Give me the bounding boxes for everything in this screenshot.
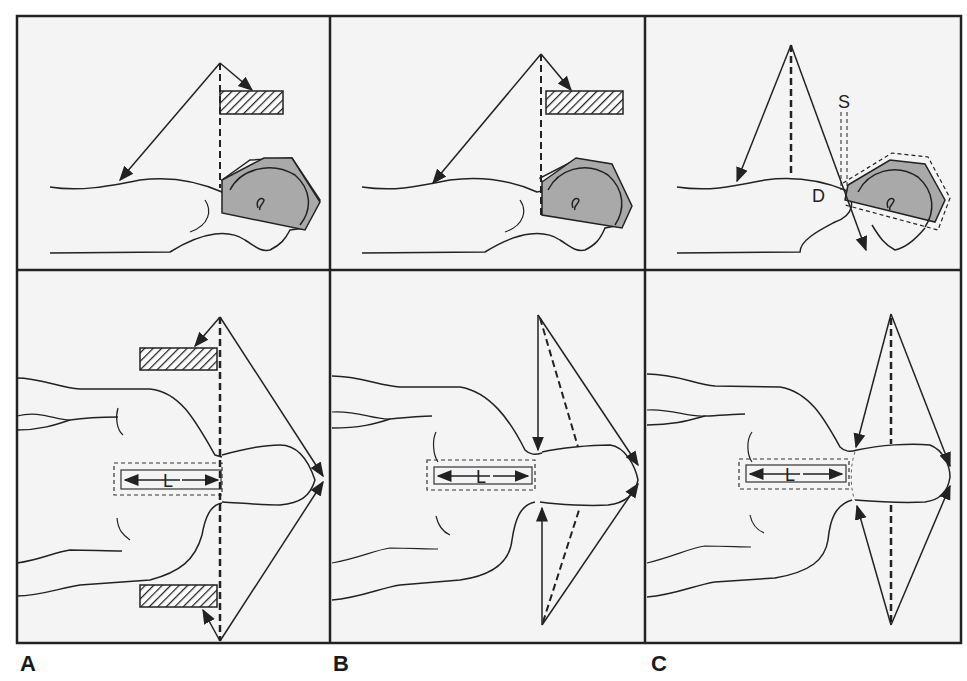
length-label: L (163, 471, 173, 491)
shield-block-upper (140, 348, 217, 370)
panel-label-a: A (20, 651, 36, 677)
shield-block-lower (140, 585, 217, 607)
radiation-field-diagram: S D L (0, 0, 967, 681)
length-label: L (476, 467, 486, 487)
panel-label-c: C (651, 651, 667, 677)
depth-label: D (812, 186, 825, 206)
figure-frame (17, 16, 961, 643)
shield-block (220, 91, 283, 114)
panel-label-b: B (333, 651, 349, 677)
gap-label: S (838, 92, 850, 112)
shield-block (546, 91, 623, 114)
length-label: L (785, 465, 795, 485)
